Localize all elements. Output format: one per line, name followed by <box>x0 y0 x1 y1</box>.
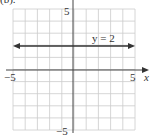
y-tick-max: 5 <box>64 5 70 17</box>
partial-label: (b). <box>0 0 16 6</box>
x-tick-max: 5 <box>130 71 136 83</box>
line-label: y = 2 <box>92 32 115 44</box>
x-axis <box>6 67 149 73</box>
x-tick-min: −5 <box>4 71 16 83</box>
right-arrow-icon <box>128 43 135 49</box>
y-tick-min: −5 <box>56 125 68 137</box>
x-axis-label: x <box>143 71 149 83</box>
left-arrow-icon <box>13 43 20 49</box>
coordinate-plane: (b). 5 −5 −5 5 x y = 2 <box>0 0 154 139</box>
